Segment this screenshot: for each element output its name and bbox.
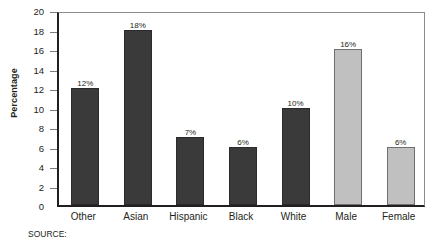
bar: 6%: [387, 147, 415, 206]
y-axis-tick-label: 14: [0, 66, 44, 76]
x-axis-category-label: Hispanic: [162, 211, 215, 223]
bar-value-label: 12%: [77, 79, 93, 88]
y-axis-tick-label: 12: [0, 85, 44, 95]
x-axis-category-label: Asian: [110, 211, 163, 223]
x-axis-category-label: Male: [320, 211, 373, 223]
y-axis-tick-label: 16: [0, 46, 44, 56]
x-axis-category-label: White: [267, 211, 320, 223]
bar-value-label: 18%: [130, 21, 146, 30]
bar-value-label: 16%: [340, 40, 356, 49]
bar: 18%: [124, 30, 152, 206]
y-axis-tick-label: 18: [0, 27, 44, 37]
x-axis-category-label: Female: [372, 211, 425, 223]
bar: 6%: [229, 147, 257, 206]
bar-value-label: 6%: [237, 138, 249, 147]
source-caption: SOURCE:: [28, 229, 428, 240]
bar-value-label: 6%: [395, 138, 407, 147]
y-axis-tick-label: 4: [0, 163, 44, 173]
bar: 12%: [71, 88, 99, 205]
bar: 7%: [176, 137, 204, 205]
bar-chart-figure: Percentage 02468101214161820 12%18%7%6%1…: [0, 0, 434, 240]
bar-value-label: 10%: [288, 99, 304, 108]
y-axis-tick-label: 8: [0, 124, 44, 134]
bar: 16%: [334, 49, 362, 205]
bar: 10%: [282, 108, 310, 206]
x-axis-category-label: Black: [215, 211, 268, 223]
plot-area: 12%18%7%6%10%16%6%: [57, 12, 425, 207]
y-axis-tick-label: 20: [0, 7, 44, 17]
x-axis-category-label: Other: [57, 211, 110, 223]
y-axis-tick-label: 0: [0, 202, 44, 212]
y-axis-tick-label: 2: [0, 183, 44, 193]
y-axis-tick-label: 6: [0, 144, 44, 154]
y-axis-tick-label: 10: [0, 105, 44, 115]
bar-value-label: 7%: [185, 128, 197, 137]
